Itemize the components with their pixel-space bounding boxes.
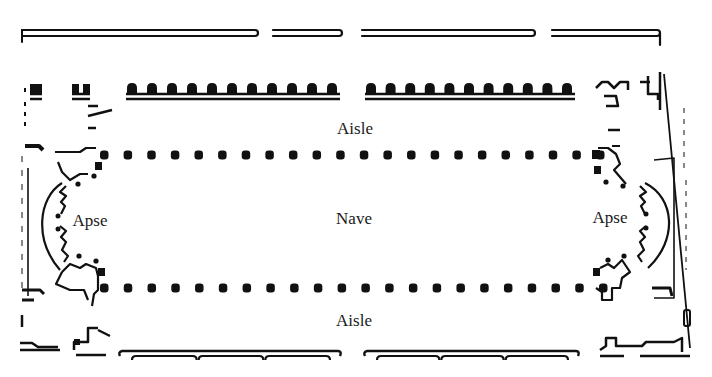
apse-left-label: Apse	[73, 212, 108, 229]
apse-right-label: Apse	[593, 209, 628, 226]
lower-aisle-wall	[119, 351, 578, 360]
outer-walls	[22, 30, 660, 45]
upper-colonnade	[100, 151, 605, 160]
aisle-bottom-label: Aisle	[336, 312, 372, 329]
aisle-top-label: Aisle	[337, 120, 373, 137]
upper-aisle-wall	[30, 83, 575, 99]
nave-label: Nave	[336, 210, 372, 227]
lower-colonnade	[100, 284, 608, 293]
